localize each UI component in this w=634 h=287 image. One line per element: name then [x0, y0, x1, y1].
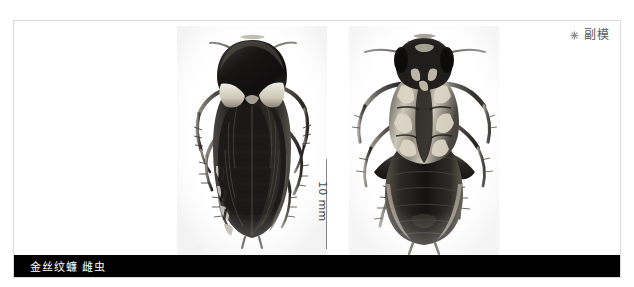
specimen-dorsal-view [177, 26, 327, 256]
asterisk-icon [570, 31, 579, 40]
caption-text: 金丝纹蠊 雌虫 [14, 258, 107, 274]
plate-inner: 10 mm 副模 金丝纹蠊 雌虫 [14, 21, 620, 277]
scale-bar-label: 10 mm [316, 181, 329, 221]
specimen-plate: 10 mm 副模 金丝纹蠊 雌虫 [0, 0, 634, 287]
specimen-ventral-view [349, 26, 499, 256]
scale-bar: 10 mm [313, 159, 343, 249]
paratype-marker: 副模 [570, 29, 609, 41]
paratype-label: 副模 [584, 29, 609, 41]
caption-bar: 金丝纹蠊 雌虫 [14, 255, 620, 277]
plate-frame: 10 mm 副模 金丝纹蠊 雌虫 [13, 20, 621, 278]
